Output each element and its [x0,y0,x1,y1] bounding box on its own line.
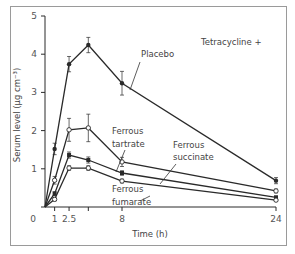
data-point [274,198,278,202]
y-tick-label: 3 [31,87,37,97]
data-point [120,171,124,175]
placebo-pointer [130,62,140,90]
annotation-tartrate-l1: Ferrous [112,126,144,136]
y-tick-label: 1 [31,164,37,174]
data-point [67,128,71,132]
series-line [45,155,276,207]
x-tick-label: 8 [119,214,125,224]
annotation-tartrate-l2: tartrate [112,139,145,149]
data-point [67,166,71,170]
data-point [86,126,90,130]
series-line [45,168,276,207]
data-point [52,178,56,182]
data-point [274,189,278,193]
chart-title: Tetracycline + [200,37,262,47]
y-tick-label: 5 [31,11,37,21]
x-tick-label: 0 [30,214,36,224]
series-ferrous-fumarate [45,166,278,207]
chart-svg: 12345012.5824 Tetracycline + Placebo Fer… [0,0,295,254]
y-tick-label: 2 [31,126,37,136]
data-point [52,197,56,201]
annotation-succinate-l1: Ferrous [173,140,205,150]
data-point [86,166,90,170]
data-point [67,153,71,157]
data-point [86,158,90,162]
data-point [52,147,56,151]
x-tick-label: 24 [270,214,282,224]
x-tick-label: 2.5 [62,214,76,224]
y-axis-title: Serum level (µg cm⁻³) [12,68,22,162]
data-point [120,179,124,183]
annotation-succinate-l2: succinate [173,152,214,162]
y-tick-label: 4 [31,49,37,59]
annotation-fumarate-l1: Ferrous [112,184,144,194]
annotation-placebo: Placebo [141,49,174,59]
data-point [67,62,71,66]
x-tick-label: 1 [52,214,58,224]
data-point [274,178,278,182]
x-axis-title: Time (h) [131,229,168,239]
series-line [45,45,276,207]
data-point [86,43,90,47]
labels-layer: Tetracycline + Placebo Ferrous tartrate … [12,37,262,239]
data-point [120,81,124,85]
